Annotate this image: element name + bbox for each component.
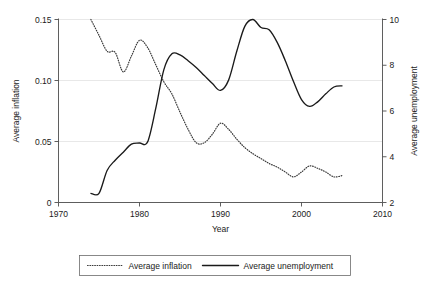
x-axis-tick-label: 2010 [373,209,392,219]
series-line-unemployment [91,19,342,195]
y-axis-right-title: Average unemployment [409,66,419,156]
y-axis-left-tick-label: 0.10 [35,76,52,86]
legend-group: Average inflationAverage unemployment [80,256,351,276]
y-axis-right-tick-label: 2 [390,198,395,208]
x-axis-tick-label: 1980 [130,209,149,219]
y-axis-right-tick-label: 10 [390,15,400,25]
chart-figure: 00.050.100.1524681019701980199020002010Y… [0,0,430,286]
y-axis-right-tick-label: 6 [390,106,395,116]
y-axis-right-tick-label: 8 [390,60,395,70]
x-axis-tick-label: 1970 [49,209,68,219]
series-line-inflation [91,20,342,178]
y-axis-left-tick-label: 0 [47,198,52,208]
legend-label-unemployment: Average unemployment [244,261,334,271]
x-axis-tick-label: 2000 [292,209,311,219]
y-axis-left-title: Average inflation [11,79,21,142]
y-axis-left-tick-label: 0.05 [35,137,52,147]
y-axis-left-tick-label: 0.15 [35,15,52,25]
x-axis-title: Year [212,224,229,234]
gridlines-group [59,20,383,203]
line-chart: 00.050.100.1524681019701980199020002010Y… [0,0,430,286]
labels-group: 00.050.100.1524681019701980199020002010Y… [11,15,419,234]
x-axis-tick-label: 1990 [211,209,230,219]
data-series-group [91,19,342,195]
legend-label-inflation: Average inflation [129,261,192,271]
y-axis-right-tick-label: 4 [390,152,395,162]
